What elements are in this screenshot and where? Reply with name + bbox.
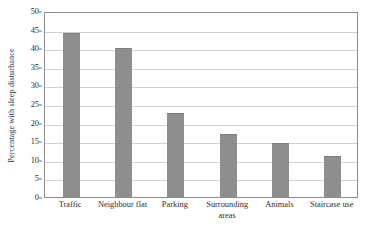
bar-chart-figure: Percentage with sleep disturbance 051015… <box>0 0 370 251</box>
y-axis-tick-mark <box>39 49 42 50</box>
x-axis-tick-labels: TrafficNeighbour flatParkingSurrounding … <box>44 200 358 246</box>
x-axis-tick-label: Neighbour flat <box>93 200 151 211</box>
y-axis-tick-label: 40 <box>31 45 39 53</box>
x-axis-tick-label: Parking <box>146 200 204 211</box>
y-axis-tick-label: 50 <box>31 8 39 16</box>
y-axis-tick-mark <box>39 179 42 180</box>
x-axis-tick-label: Surrounding areas <box>198 200 256 221</box>
y-axis-tick-label: 10 <box>31 157 39 165</box>
y-axis-tick-mark <box>39 67 42 68</box>
plot-area <box>44 12 358 198</box>
x-axis-tick-label: Staircase use <box>303 200 361 211</box>
y-axis-tick-mark <box>39 105 42 106</box>
y-axis-tick-mark <box>39 86 42 87</box>
y-axis-tick-mark <box>39 198 42 199</box>
y-axis-tick-labels: 05101520253035404550 <box>22 12 42 198</box>
y-axis-title: Percentage with sleep disturbance <box>0 0 22 210</box>
y-axis-tick-mark <box>39 123 42 124</box>
y-axis-tick-label: 35 <box>31 64 39 72</box>
y-axis-tick-label: 15 <box>31 138 39 146</box>
bar <box>324 156 341 197</box>
bar-series <box>45 13 357 197</box>
x-axis-tick-label: Traffic <box>41 200 99 211</box>
bar <box>63 33 80 197</box>
y-axis-tick-label: 20 <box>31 119 39 127</box>
y-axis-tick-label: 45 <box>31 26 39 34</box>
y-axis-tick-label: 25 <box>31 101 39 109</box>
y-axis-tick-mark <box>39 160 42 161</box>
bar <box>272 143 289 197</box>
y-axis-tick-label: 30 <box>31 82 39 90</box>
x-axis-tick-label: Animals <box>250 200 308 211</box>
y-axis-tick-mark <box>39 30 42 31</box>
bar <box>115 48 132 197</box>
y-axis-tick-mark <box>39 12 42 13</box>
bar <box>167 113 184 197</box>
y-axis-title-text: Percentage with sleep disturbance <box>7 48 16 162</box>
y-axis-tick-mark <box>39 142 42 143</box>
bar <box>220 134 237 197</box>
